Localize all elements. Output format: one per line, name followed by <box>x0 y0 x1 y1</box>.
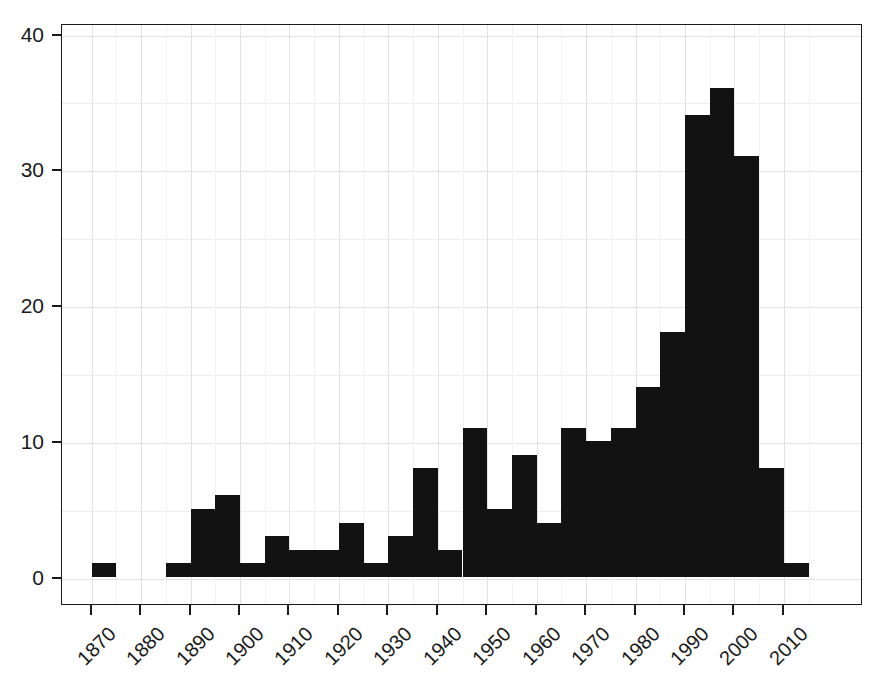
histogram-bar <box>586 441 611 577</box>
histogram-bar <box>265 536 290 577</box>
gridline-vertical-minor <box>166 25 167 604</box>
y-tick-mark <box>52 34 61 36</box>
plot-area <box>61 24 862 605</box>
histogram-bar <box>339 523 364 577</box>
x-tick-mark <box>485 605 487 615</box>
histogram-bar <box>289 550 314 577</box>
gridline-vertical <box>537 25 538 604</box>
gridline-vertical-minor <box>809 25 810 604</box>
gridline-vertical <box>240 25 241 604</box>
x-tick-mark <box>189 605 191 615</box>
histogram-bar <box>413 468 438 577</box>
y-tick-label: 0 <box>0 567 44 588</box>
y-tick-label: 40 <box>0 24 44 45</box>
x-tick-mark <box>584 605 586 615</box>
histogram-bar <box>388 536 413 577</box>
histogram-bar <box>512 455 537 577</box>
x-tick-mark <box>139 605 141 615</box>
gridline-vertical <box>141 25 142 604</box>
x-tick-label: 1870 <box>0 623 119 678</box>
histogram-bar <box>710 88 735 577</box>
gridline-horizontal <box>62 36 861 37</box>
gridline-vertical <box>289 25 290 604</box>
histogram-bar <box>314 550 339 577</box>
x-tick-mark <box>238 605 240 615</box>
histogram-bar <box>734 156 759 577</box>
x-tick-mark <box>287 605 289 615</box>
histogram-bar <box>660 332 685 577</box>
histogram-figure: 010203040 187018801890190019101920193019… <box>0 0 879 678</box>
histogram-bar <box>537 523 562 577</box>
gridline-vertical-minor <box>364 25 365 604</box>
histogram-bar <box>784 563 809 577</box>
x-tick-mark <box>337 605 339 615</box>
histogram-bar <box>636 387 661 577</box>
x-tick-mark <box>634 605 636 615</box>
y-tick-label: 20 <box>0 295 44 316</box>
y-tick-mark <box>52 577 61 579</box>
gridline-vertical <box>438 25 439 604</box>
histogram-bar <box>364 563 389 577</box>
x-tick-mark <box>386 605 388 615</box>
gridline-vertical <box>784 25 785 604</box>
histogram-bar <box>438 550 463 577</box>
histogram-bar <box>561 428 586 577</box>
histogram-bar <box>487 509 512 577</box>
gridline-vertical <box>339 25 340 604</box>
gridline-vertical-minor <box>265 25 266 604</box>
histogram-bar <box>166 563 191 577</box>
histogram-bar <box>685 115 710 577</box>
y-tick-mark <box>52 305 61 307</box>
gridline-vertical <box>92 25 93 604</box>
y-tick-mark <box>52 169 61 171</box>
y-tick-mark <box>52 441 61 443</box>
x-tick-mark <box>782 605 784 615</box>
histogram-bar <box>92 563 117 577</box>
x-tick-mark <box>732 605 734 615</box>
gridline-vertical-minor <box>116 25 117 604</box>
x-tick-mark <box>436 605 438 615</box>
histogram-bar <box>611 428 636 577</box>
histogram-bar <box>215 495 240 577</box>
x-tick-mark <box>535 605 537 615</box>
x-tick-mark <box>683 605 685 615</box>
x-tick-mark <box>90 605 92 615</box>
y-tick-label: 10 <box>0 431 44 452</box>
histogram-bar <box>240 563 265 577</box>
gridline-vertical-minor <box>314 25 315 604</box>
y-tick-label: 30 <box>0 159 44 180</box>
gridline-vertical <box>388 25 389 604</box>
histogram-bar <box>463 428 488 577</box>
gridline-horizontal <box>62 579 861 580</box>
histogram-bar <box>191 509 216 577</box>
gridline-horizontal-minor <box>62 103 861 104</box>
histogram-bar <box>759 468 784 577</box>
